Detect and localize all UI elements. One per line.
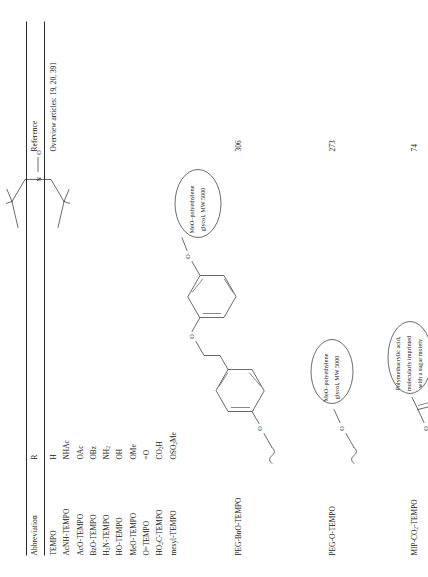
cell-abbreviation: PEG-O-TEMPO — [328, 506, 337, 555]
cell-abbreviation: MIP-CO2-TEMPO — [410, 499, 419, 555]
cell-abbreviation: MeO-TEMPO — [129, 512, 138, 555]
structure-mip-co2-tempo: O O Polymethacrylic acid, molecularly im… — [372, 257, 428, 467]
cell-r: OBz — [89, 445, 98, 459]
cell-abbreviation: O=TEMPO — [142, 520, 151, 555]
cell-reference: 273 — [328, 140, 337, 151]
cell-abbreviation: mesyl-TEMPO — [169, 510, 178, 555]
peg-callout-line1: MeO–polyethylene — [188, 185, 195, 233]
peg-callout-ellipse — [175, 169, 221, 237]
peg-callout-line2: glycol, MW 5000 — [199, 187, 206, 231]
cell-r: OMe — [129, 444, 138, 459]
cell-abbreviation: TEMPO — [49, 530, 58, 555]
cell-abbreviation: BzO-TEMPO — [89, 514, 98, 555]
structure-peg-bno-tempo: O O — [176, 167, 296, 467]
column-header-r: R — [30, 454, 39, 459]
rotated-page-stage: N O • Abbreviation R Reference TEMPO H — [0, 0, 428, 577]
cell-abbreviation: H2N-TEMPO — [102, 514, 111, 555]
peg2-callout-line1: MeO–polyethylene — [322, 353, 329, 401]
table-row: BzO-TEMPO OBz — [89, 21, 102, 555]
table-sheet: N O • Abbreviation R Reference TEMPO H — [0, 0, 428, 577]
atom-label-o: O — [184, 253, 191, 258]
column-header-reference: Reference — [30, 120, 39, 151]
cell-r: NH2 — [102, 446, 111, 459]
table-row: H2N-TEMPO NH2 — [102, 21, 115, 555]
atom-label-o: O — [256, 425, 263, 430]
cell-abbreviation: HO2C-TEMPO — [155, 509, 164, 555]
cell-abbreviation: AcNH-TEMPO — [62, 508, 71, 555]
peg2-callout-line2: glycol, MW 5000 — [333, 355, 340, 399]
table-header-row: Abbreviation R Reference — [27, 21, 44, 555]
mip-callout-line3: with a sugar moiety — [416, 338, 423, 388]
table-row: PEG-BnO-TEMPO 306 O — [182, 21, 298, 555]
cell-reference: Overview articles: 19, 20, 391 — [49, 62, 58, 152]
table-row: HO-TEMPO OH — [115, 21, 128, 555]
table-row: AcO-TEMPO OAc — [76, 21, 89, 555]
mip-callout-line2: molecularly imprinted — [405, 335, 412, 391]
cell-r: =O — [142, 449, 151, 459]
atom-label-o: O — [338, 425, 345, 430]
column-header-abbreviation: Abbreviation — [30, 515, 39, 555]
table-body: TEMPO H Overview articles: 19, 20, 391 A… — [45, 21, 428, 555]
table-row: PEG-O-TEMPO 273 O MeO–polyethylene glyco… — [298, 21, 374, 555]
page-root: N O • Abbreviation R Reference TEMPO H — [0, 0, 428, 577]
cell-abbreviation: AcO-TEMPO — [76, 514, 85, 555]
table-row: MeO-TEMPO OMe — [129, 21, 142, 555]
data-table: Abbreviation R Reference TEMPO H Overvie… — [26, 21, 428, 555]
cell-r: CO2H — [155, 441, 164, 459]
cell-r: OAc — [76, 445, 85, 459]
structure-peg-o-tempo: O MeO–polyethylene glycol, MW 5000 — [296, 267, 376, 467]
cell-r: NHAc — [62, 440, 71, 459]
cell-abbreviation: HO-TEMPO — [115, 517, 124, 555]
peg2-callout-ellipse — [311, 339, 353, 403]
cell-reference: 74 — [410, 144, 419, 151]
mip-callout-line1: Polymethacrylic acid, — [394, 336, 401, 390]
table-row: AcNH-TEMPO NHAc — [62, 21, 75, 555]
atom-label-o: O — [422, 425, 428, 430]
atom-label-o: O — [188, 333, 195, 338]
table-row: O=TEMPO =O — [142, 21, 155, 555]
table-row: TEMPO H Overview articles: 19, 20, 391 — [49, 21, 62, 555]
table-row: MIP-CO2-TEMPO 74 O O — [374, 21, 428, 555]
cell-r: H — [49, 454, 58, 459]
cell-r: OH — [115, 448, 124, 459]
table-row: HO2C-TEMPO CO2H — [155, 21, 168, 555]
cell-abbreviation: PEG-BnO-TEMPO — [234, 497, 243, 555]
cell-reference: 306 — [234, 140, 243, 151]
